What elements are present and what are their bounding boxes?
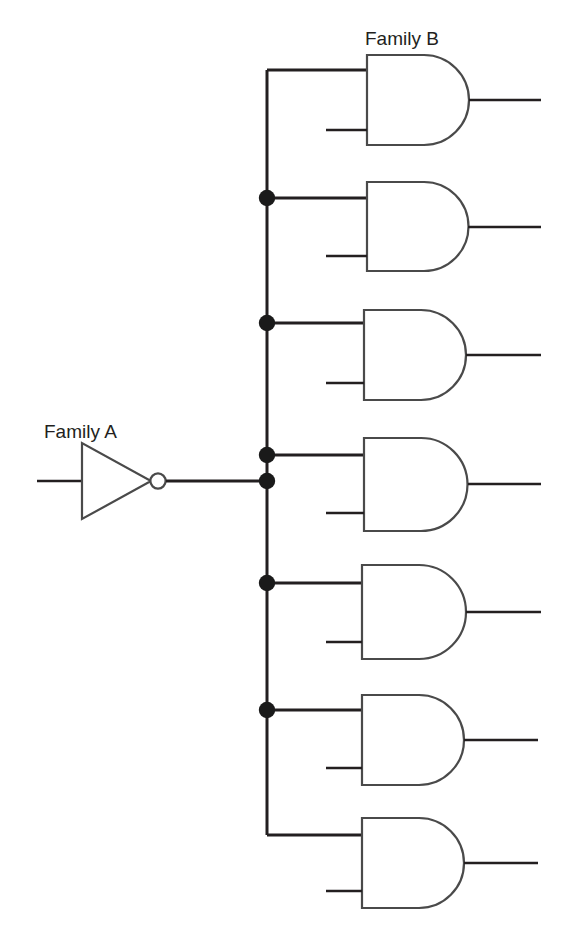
junction-dot <box>259 702 275 718</box>
logic-gate-fanout-diagram: Family A Family B <box>0 0 569 935</box>
junction-dot <box>259 315 275 331</box>
family-b-label: Family B <box>365 28 439 49</box>
diagram-background <box>0 0 569 935</box>
inverter-bubble-icon <box>150 473 165 488</box>
family-a-label: Family A <box>44 421 117 442</box>
junction-dot <box>259 473 275 489</box>
junction-dot <box>259 190 275 206</box>
junction-dot <box>259 575 275 591</box>
junction-dot <box>259 447 275 463</box>
